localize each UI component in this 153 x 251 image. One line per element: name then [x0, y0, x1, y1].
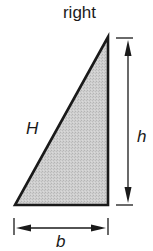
height-label: h	[137, 128, 146, 145]
arrow-right-icon	[91, 225, 106, 232]
arrow-up-icon	[125, 40, 132, 56]
arrow-down-icon	[125, 187, 132, 203]
base-label: b	[56, 233, 65, 250]
hypotenuse-label: H	[26, 120, 38, 137]
arrow-left-icon	[16, 225, 31, 232]
height-dimension-line	[116, 38, 133, 205]
